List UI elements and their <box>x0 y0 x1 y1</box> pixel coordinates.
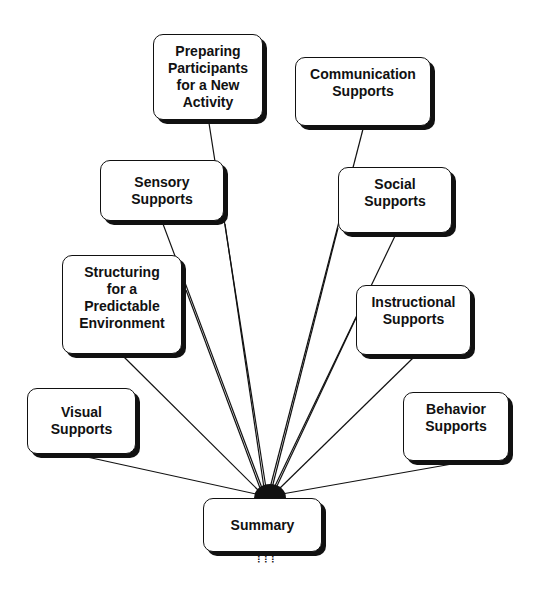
summary-tick-marks: ⋮⋮⋮ <box>255 556 276 564</box>
node-structuring-environment[interactable]: Structuring for a Predictable Environmen… <box>62 255 182 354</box>
edge-social2-summary <box>274 236 395 488</box>
node-label: Summary <box>231 517 295 534</box>
edge-social-summary <box>272 228 338 488</box>
node-instructional-supports[interactable]: Instructional Supports <box>356 285 471 355</box>
node-preparing-participants[interactable]: Preparing Participants for a New Activit… <box>153 34 263 120</box>
node-label: Communication Supports <box>310 66 416 100</box>
node-visual-supports[interactable]: Visual Supports <box>27 388 136 454</box>
node-label: Instructional Supports <box>371 294 455 328</box>
edge-behavior-summary <box>282 464 452 494</box>
node-summary-hub[interactable]: Summary <box>203 498 322 552</box>
node-label: Visual Supports <box>51 404 112 438</box>
node-label: Behavior Supports <box>425 401 486 435</box>
node-label: Structuring for a Predictable Environmen… <box>79 264 165 332</box>
node-sensory-supports[interactable]: Sensory Supports <box>100 160 224 221</box>
edge-instructional2-summary <box>276 318 356 488</box>
node-label: Social Supports <box>364 176 425 210</box>
node-label: Preparing Participants for a New Activit… <box>168 43 248 111</box>
node-behavior-supports[interactable]: Behavior Supports <box>403 392 509 461</box>
edge-sensory2-summary <box>225 224 264 488</box>
node-social-supports[interactable]: Social Supports <box>338 167 452 233</box>
node-communication-supports[interactable]: Communication Supports <box>295 57 431 126</box>
node-label: Sensory Supports <box>131 174 192 208</box>
